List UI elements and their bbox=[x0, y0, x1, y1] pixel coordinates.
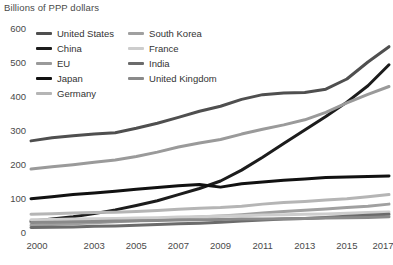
series-line-germany bbox=[31, 195, 389, 215]
legend-label: South Korea bbox=[149, 27, 202, 40]
x-tick-label: 2015 bbox=[336, 240, 357, 251]
x-tick-label: 2007 bbox=[168, 240, 189, 251]
legend-label: India bbox=[149, 57, 170, 70]
chart-legend: United StatesChinaEUJapanGermanySouth Ko… bbox=[36, 27, 217, 100]
legend-item-united-states[interactable]: United States bbox=[36, 27, 114, 40]
legend-swatch-icon bbox=[36, 62, 52, 65]
legend-label: Japan bbox=[57, 72, 83, 85]
line-chart: Billions of PPP dollars 0100200300400500… bbox=[0, 0, 393, 265]
legend-swatch-icon bbox=[36, 47, 52, 50]
legend-label: United States bbox=[57, 27, 114, 40]
legend-swatch-icon bbox=[128, 32, 144, 35]
legend-label: France bbox=[149, 42, 179, 55]
legend-item-germany[interactable]: Germany bbox=[36, 87, 114, 100]
series-line-japan bbox=[31, 176, 389, 199]
x-tick-label: 2013 bbox=[294, 240, 315, 251]
legend-swatch-icon bbox=[36, 92, 52, 95]
y-axis-tick-labels: 0100200300400500600 bbox=[10, 23, 26, 238]
legend-swatch-icon bbox=[128, 77, 144, 80]
x-tick-label: 2011 bbox=[252, 240, 272, 251]
x-tick-label: 2017 bbox=[372, 240, 393, 251]
legend-swatch-icon bbox=[128, 62, 144, 65]
legend-item-eu[interactable]: EU bbox=[36, 57, 114, 70]
y-tick-label: 100 bbox=[10, 193, 26, 204]
x-tick-label: 2005 bbox=[126, 240, 147, 251]
y-tick-label: 500 bbox=[10, 57, 26, 68]
x-axis-tick-labels: 200020032005200720092011201320152017 bbox=[26, 240, 393, 251]
legend-column-2: South KoreaFranceIndiaUnited Kingdom bbox=[128, 27, 217, 100]
x-tick-label: 2000 bbox=[26, 240, 47, 251]
legend-item-china[interactable]: China bbox=[36, 42, 114, 55]
legend-swatch-icon bbox=[36, 77, 52, 80]
x-tick-label: 2009 bbox=[210, 240, 231, 251]
legend-swatch-icon bbox=[36, 32, 52, 35]
legend-item-south-korea[interactable]: South Korea bbox=[128, 27, 217, 40]
y-tick-label: 600 bbox=[10, 23, 26, 34]
legend-label: China bbox=[57, 42, 82, 55]
x-tick-label: 2003 bbox=[84, 240, 105, 251]
legend-swatch-icon bbox=[128, 47, 144, 50]
y-tick-label: 400 bbox=[10, 91, 26, 102]
y-tick-label: 300 bbox=[10, 125, 26, 136]
y-tick-label: 200 bbox=[10, 159, 26, 170]
legend-label: EU bbox=[57, 57, 70, 70]
legend-label: Germany bbox=[57, 87, 96, 100]
legend-label: United Kingdom bbox=[149, 72, 217, 85]
y-tick-label: 0 bbox=[21, 227, 26, 238]
legend-column-1: United StatesChinaEUJapanGermany bbox=[36, 27, 114, 100]
legend-item-united-kingdom[interactable]: United Kingdom bbox=[128, 72, 217, 85]
legend-item-france[interactable]: France bbox=[128, 42, 217, 55]
legend-item-india[interactable]: India bbox=[128, 57, 217, 70]
legend-item-japan[interactable]: Japan bbox=[36, 72, 114, 85]
